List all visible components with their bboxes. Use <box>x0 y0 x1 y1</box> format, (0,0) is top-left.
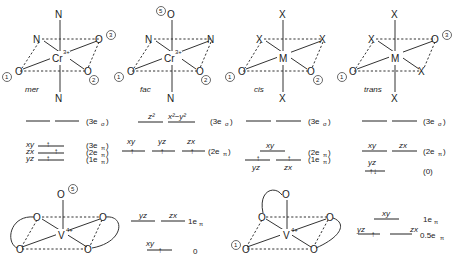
atom-bottom: N <box>55 93 62 104</box>
svg-text:xy: xy <box>126 137 136 146</box>
svg-text:↑: ↑ <box>190 147 194 156</box>
atom-top: X <box>279 9 286 20</box>
svg-text:zx: zx <box>409 225 419 234</box>
marker-1: 1 <box>340 74 344 80</box>
atom-bottom: X <box>279 93 286 104</box>
svg-text:yz: yz <box>251 163 260 172</box>
svg-text:σ: σ <box>225 121 229 127</box>
svg-text:): ) <box>106 155 109 164</box>
svg-text:zx: zx <box>168 211 178 220</box>
marker-1: 1 <box>5 74 9 80</box>
svg-text:(3e: (3e <box>86 117 98 126</box>
svg-text:yz: yz <box>356 225 365 234</box>
metal-charge: 4+ <box>66 227 73 233</box>
atom-back-right: X <box>319 34 326 45</box>
svg-text:): ) <box>328 117 331 126</box>
svg-text:zx: zx <box>283 163 293 172</box>
svg-text:(3e: (3e <box>308 117 320 126</box>
svg-text:π: π <box>101 159 105 165</box>
svg-text:0: 0 <box>193 247 198 256</box>
svg-text:z²: z² <box>147 112 155 121</box>
svg-text:xy: xy <box>265 141 275 150</box>
atom-back-right: O <box>431 34 439 45</box>
atom-back-right: O <box>99 212 107 223</box>
atom-top: O <box>282 189 290 200</box>
panel-vanadyl-1: O O O O O V 4+ 5 yz zx 1e π xy ↑ 0 <box>11 185 203 257</box>
svg-text:↑: ↑ <box>160 147 164 156</box>
svg-text:↑: ↑ <box>158 246 162 255</box>
atom-back-right: O <box>326 212 334 223</box>
svg-text:x²−y²: x²−y² <box>167 112 186 121</box>
svg-text:π: π <box>101 145 105 151</box>
atom-back-left: N <box>145 34 152 45</box>
svg-text:): ) <box>228 147 231 156</box>
atom-top: O <box>57 189 65 200</box>
svg-text:↑: ↑ <box>371 230 375 239</box>
atom-front-left: O <box>127 66 135 77</box>
atom-front-right: O <box>310 244 318 255</box>
atom-top: X <box>391 9 398 20</box>
svg-text:1e: 1e <box>188 217 197 226</box>
svg-text:π: π <box>223 151 227 157</box>
svg-text:xy: xy <box>381 209 391 218</box>
svg-text:(2e: (2e <box>208 147 220 156</box>
svg-text:): ) <box>230 117 233 126</box>
svg-text:zx: zx <box>398 141 408 150</box>
svg-text:(1e: (1e <box>308 155 320 164</box>
panel-mer: N N N O O O Cr 3+ 3 1 2 mer (3e σ ) xy z… <box>3 9 116 165</box>
svg-text:1e: 1e <box>423 215 432 224</box>
metal-symbol: V <box>58 230 65 241</box>
atom-front-left: O <box>238 66 246 77</box>
isomer-label: mer <box>25 85 39 94</box>
svg-text:π: π <box>199 221 203 227</box>
svg-text:yz: yz <box>157 137 166 146</box>
svg-text:↑↓: ↑↓ <box>369 167 377 176</box>
atom-back-left: X <box>368 34 375 45</box>
metal-symbol: Cr <box>164 53 175 64</box>
svg-text:σ: σ <box>438 121 442 127</box>
marker-1: 1 <box>117 74 121 80</box>
atom-back-left: O <box>258 212 266 223</box>
atom-front-left: O <box>15 66 23 77</box>
metal-symbol: M <box>391 53 399 64</box>
atom-back-right: N <box>207 34 214 45</box>
svg-text:π: π <box>323 159 327 165</box>
atom-front-right: O <box>307 66 315 77</box>
svg-text:xy: xy <box>367 141 377 150</box>
ligand-field-diagram: N N N O O O Cr 3+ 3 1 2 mer (3e σ ) xy z… <box>0 0 453 263</box>
svg-text:σ: σ <box>323 121 327 127</box>
svg-text:(3e: (3e <box>423 117 435 126</box>
svg-text:(2e: (2e <box>423 147 435 156</box>
atom-front-right: O <box>84 66 92 77</box>
svg-text:π: π <box>440 235 444 241</box>
svg-text:π: π <box>438 151 442 157</box>
atom-back-left: X <box>256 34 263 45</box>
svg-text:0.5e: 0.5e <box>420 231 436 240</box>
atom-bottom: N <box>167 93 174 104</box>
marker-3: 3 <box>109 32 113 38</box>
atom-front-left: O <box>349 66 357 77</box>
svg-text:↑: ↑ <box>130 147 134 156</box>
marker-1: 1 <box>234 242 238 248</box>
metal-charge: 3+ <box>175 49 182 55</box>
svg-text:): ) <box>106 117 109 126</box>
svg-text:π: π <box>101 152 105 158</box>
metal-symbol: V <box>283 230 290 241</box>
atom-front-right: O <box>196 66 204 77</box>
panel-trans: X X X O O X M 3 1 trans (3e σ ) xy zx (2… <box>338 9 452 176</box>
marker-2: 2 <box>316 77 320 83</box>
svg-text:↑: ↑ <box>46 140 50 149</box>
atom-top: N <box>55 9 62 20</box>
svg-text:↑: ↑ <box>46 154 50 163</box>
svg-text:↑: ↑ <box>256 154 260 163</box>
svg-text:π: π <box>323 152 327 158</box>
svg-text:zx: zx <box>186 137 196 146</box>
svg-text:↑: ↑ <box>287 154 291 163</box>
marker-2: 2 <box>204 77 208 83</box>
marker-2: 2 <box>92 77 96 83</box>
svg-text:yz: yz <box>138 211 147 220</box>
svg-text:yz: yz <box>367 158 376 167</box>
svg-text:(0): (0) <box>423 167 433 176</box>
metal-charge: 4+ <box>291 227 298 233</box>
atom-back-left: O <box>33 212 41 223</box>
